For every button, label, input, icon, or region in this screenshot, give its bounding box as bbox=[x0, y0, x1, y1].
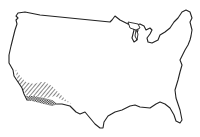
us-map bbox=[0, 0, 200, 137]
us-outline bbox=[9, 10, 192, 128]
